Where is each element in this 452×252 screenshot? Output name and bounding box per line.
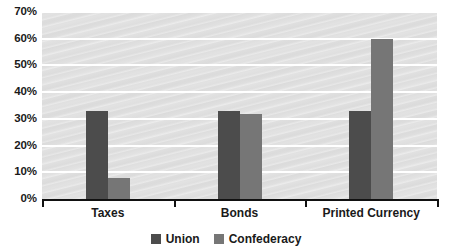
bar-chart: 0%10%20%30%40%50%60%70% TaxesBondsPrinte… [0, 0, 452, 252]
y-axis-tick-label: 40% [14, 86, 37, 98]
bar [108, 178, 130, 199]
x-axis-category-label: Bonds [221, 207, 258, 219]
x-axis-tick [174, 199, 176, 207]
y-axis-tick-label: 70% [14, 6, 37, 18]
y-axis-tick-label: 20% [14, 140, 37, 152]
y-axis-tick-label: 0% [21, 193, 37, 205]
bar [371, 39, 393, 199]
legend-label: Confederacy [229, 233, 302, 245]
bar [240, 114, 262, 199]
plot-area [42, 12, 437, 199]
legend-entry[interactable]: Union [151, 233, 200, 245]
x-axis-category-label: Taxes [91, 207, 124, 219]
legend-swatch-icon [151, 234, 161, 244]
bar [349, 111, 371, 199]
x-axis-line [42, 199, 438, 201]
legend-swatch-icon [214, 234, 224, 244]
legend-label: Union [166, 233, 200, 245]
bar [86, 111, 108, 199]
bar [218, 111, 240, 199]
bars [42, 12, 437, 199]
y-axis-tick-label: 50% [14, 60, 37, 72]
y-axis: 0%10%20%30%40%50%60%70% [0, 0, 40, 200]
y-axis-tick-label: 60% [14, 33, 37, 45]
legend: UnionConfederacy [0, 231, 452, 247]
x-axis-tick [437, 199, 439, 207]
y-axis-tick-label: 30% [14, 113, 37, 125]
legend-entry[interactable]: Confederacy [214, 233, 302, 245]
x-axis-tick [42, 199, 44, 207]
x-axis-tick [305, 199, 307, 207]
x-axis-category-label: Printed Currency [322, 207, 419, 219]
y-axis-tick-label: 10% [14, 167, 37, 179]
